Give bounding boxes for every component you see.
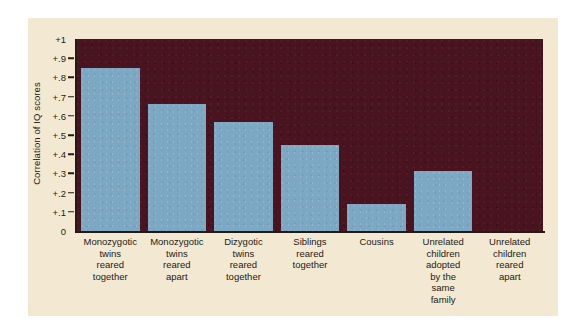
bar-slot <box>277 39 344 231</box>
x-axis-category-label-line: apart <box>476 271 543 283</box>
x-axis-category-labels: MonozygotictwinsrearedtogetherMonozygoti… <box>77 236 543 316</box>
x-axis-category-label-line: together <box>210 271 277 283</box>
y-axis-tick-label: 0 <box>61 226 66 237</box>
x-axis-category-label-line: same <box>410 282 477 294</box>
x-axis-category-label-line: twins <box>210 248 277 260</box>
x-axis-category-label-line: family <box>410 294 477 306</box>
x-axis-line <box>75 231 545 233</box>
x-axis-category-label-line: Siblings <box>277 236 344 248</box>
x-axis-category-label: Monozygotictwinsrearedapart <box>144 236 211 282</box>
y-axis-tick-label: +.3 <box>53 168 66 179</box>
x-axis-category-label-line: apart <box>144 271 211 283</box>
x-axis-category-label-line: Unrelated <box>410 236 477 248</box>
y-axis-tick-mark <box>68 173 74 175</box>
x-axis-category-label: Cousins <box>343 236 410 248</box>
x-axis-category-label-line: adopted <box>410 259 477 271</box>
y-axis-tick-label: +.2 <box>53 187 66 198</box>
y-axis-tick-label: +.6 <box>53 110 66 121</box>
y-axis-tick-label: +.9 <box>53 53 66 64</box>
bar[interactable] <box>214 122 273 231</box>
x-axis-category-label-line: reared <box>476 259 543 271</box>
bar-slot <box>343 39 410 231</box>
y-axis-tick-mark <box>68 192 74 194</box>
y-axis-tick-mark <box>68 96 74 98</box>
x-axis-category-label-line: twins <box>144 248 211 260</box>
x-axis-category-label-line: reared <box>144 259 211 271</box>
bar[interactable] <box>148 104 207 231</box>
y-axis-tick-mark <box>68 153 74 155</box>
x-axis-category-label: Unrelatedchildrenrearedapart <box>476 236 543 282</box>
y-axis-tick-labels: +1+.9+.8+.7+.6+.5+.4+.3+.2+.10 <box>30 39 74 231</box>
x-axis-category-label-line: children <box>410 248 477 260</box>
y-axis-tick-label: +.7 <box>53 91 66 102</box>
x-axis-category-label: Unrelatedchildrenadoptedby thesamefamily <box>410 236 477 305</box>
x-axis-category-label-line: reared <box>277 248 344 260</box>
x-axis-category-label-line: Cousins <box>343 236 410 248</box>
y-axis-tick-mark <box>68 134 74 136</box>
x-axis-category-label-line: Unrelated <box>476 236 543 248</box>
x-axis-category-label-line: Monozygotic <box>77 236 144 248</box>
y-axis-tick-label: +.1 <box>53 206 66 217</box>
plot-area <box>77 39 543 231</box>
bar[interactable] <box>81 68 140 231</box>
y-axis-tick-mark <box>68 115 74 117</box>
x-axis-category-label-line: by the <box>410 271 477 283</box>
x-axis-category-label-line: twins <box>77 248 144 260</box>
bar[interactable] <box>414 171 473 231</box>
iq-correlation-bar-chart: Correlation of IQ scores +1+.9+.8+.7+.6+… <box>0 0 585 332</box>
bar-slot <box>476 39 543 231</box>
x-axis-category-label: Dizygotictwinsrearedtogether <box>210 236 277 282</box>
bar[interactable] <box>347 204 406 231</box>
bar-slot <box>410 39 477 231</box>
y-axis-tick-mark <box>68 77 74 79</box>
y-axis-tick-label: +.8 <box>53 72 66 83</box>
bar-slot <box>210 39 277 231</box>
bar-slot <box>144 39 211 231</box>
x-axis-category-label-line: together <box>77 271 144 283</box>
y-axis-tick-mark <box>68 211 74 213</box>
x-axis-category-label: Siblingsrearedtogether <box>277 236 344 271</box>
x-axis-category-label-line: children <box>476 248 543 260</box>
y-axis-tick-label: +1 <box>55 34 66 45</box>
x-axis-category-label-line: reared <box>210 259 277 271</box>
x-axis-category-label: Monozygotictwinsrearedtogether <box>77 236 144 282</box>
x-axis-category-label-line: reared <box>77 259 144 271</box>
bar-slot <box>77 39 144 231</box>
x-axis-category-label-line: Monozygotic <box>144 236 211 248</box>
bar[interactable] <box>281 145 340 231</box>
x-axis-category-label-line: together <box>277 259 344 271</box>
y-axis-tick-mark <box>68 57 74 59</box>
y-axis-tick-label: +.5 <box>53 130 66 141</box>
x-axis-category-label-line: Dizygotic <box>210 236 277 248</box>
y-axis-tick-label: +.4 <box>53 149 66 160</box>
